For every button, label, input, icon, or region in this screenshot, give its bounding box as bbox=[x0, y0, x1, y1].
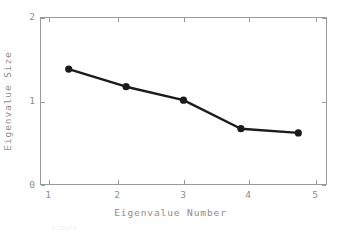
x-tick-label-1: 1 bbox=[38, 190, 58, 200]
y-axis-title: Eigenvalue Size bbox=[2, 51, 13, 150]
y-tick-1-right bbox=[322, 102, 326, 103]
x-tick-1-top bbox=[49, 18, 50, 22]
x-tick-3-top bbox=[184, 18, 185, 22]
y-tick-label-1: 1 bbox=[15, 96, 35, 106]
x-tick-4-top bbox=[249, 18, 250, 22]
y-tick-label-2: 2 bbox=[15, 12, 35, 22]
plot-area bbox=[40, 17, 327, 185]
x-tick-label-4: 4 bbox=[238, 190, 258, 200]
x-tick-5 bbox=[316, 180, 317, 184]
y-tick-2-right bbox=[322, 18, 326, 19]
caption-artifact: Figure bbox=[52, 224, 232, 230]
x-tick-label-5: 5 bbox=[305, 190, 325, 200]
x-tick-3 bbox=[184, 180, 185, 184]
x-tick-2-top bbox=[118, 18, 119, 22]
y-tick-0 bbox=[41, 185, 45, 186]
scree-plot-figure: 2 1 0 1 2 3 4 5 Eigenvalue Number Eigenv… bbox=[0, 0, 341, 232]
y-tick-1 bbox=[41, 102, 45, 103]
y-tick-0-right bbox=[322, 185, 326, 186]
x-tick-4 bbox=[249, 180, 250, 184]
x-tick-2 bbox=[118, 180, 119, 184]
y-tick-2 bbox=[41, 18, 45, 19]
x-tick-label-2: 2 bbox=[107, 190, 127, 200]
x-tick-5-top bbox=[316, 18, 317, 22]
x-tick-label-3: 3 bbox=[173, 190, 193, 200]
y-tick-label-0: 0 bbox=[15, 180, 35, 190]
x-tick-1 bbox=[49, 180, 50, 184]
x-axis-title: Eigenvalue Number bbox=[0, 207, 341, 218]
